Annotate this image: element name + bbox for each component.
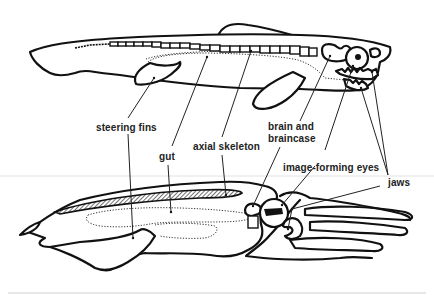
squid-arm [290,238,382,251]
label-jaws: jaws [388,177,410,189]
squid-arm [310,221,407,235]
label-image-forming-eyes: image-forming eyes [283,162,379,174]
squid-drawing [20,182,412,271]
label-axial-skeleton: axial skeleton [193,141,260,153]
label-gut: gut [159,151,175,163]
fish-body [30,34,390,91]
squid-beak-jaws [283,218,302,239]
label-brain-line1: brain and [268,121,314,133]
fish-drawing [30,24,390,109]
label-brain-line2: braincase [268,133,316,145]
label-steering-fins: steering fins [96,122,157,134]
